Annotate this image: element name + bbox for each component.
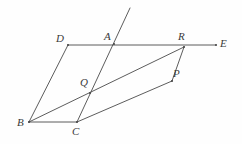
vertex-point-q xyxy=(89,92,91,94)
vertex-label-b: B xyxy=(17,117,24,128)
transversal-through-a-q-to-c xyxy=(77,8,130,122)
vertex-label-p: P xyxy=(173,68,180,79)
vertex-point-e xyxy=(215,44,217,46)
vertex-point-d xyxy=(67,44,69,46)
vertex-point-p xyxy=(171,80,173,82)
segment-c-to-p xyxy=(77,81,172,122)
geometry-canvas xyxy=(0,0,242,144)
vertex-markers-group xyxy=(28,43,217,123)
vertex-point-b xyxy=(28,121,30,123)
segment-d-to-b xyxy=(29,45,68,122)
vertex-label-c: C xyxy=(72,126,79,137)
vertex-label-r: R xyxy=(178,31,185,42)
geometry-figure: ABCDEPQR xyxy=(0,0,242,144)
vertex-label-d: D xyxy=(56,33,64,44)
vertex-point-a xyxy=(113,43,115,45)
vertex-label-a: A xyxy=(104,31,111,42)
vertex-label-e: E xyxy=(220,38,227,49)
vertex-label-q: Q xyxy=(80,77,88,88)
vertex-point-c xyxy=(76,121,78,123)
segments-group xyxy=(29,8,216,122)
vertex-point-r xyxy=(183,46,185,48)
